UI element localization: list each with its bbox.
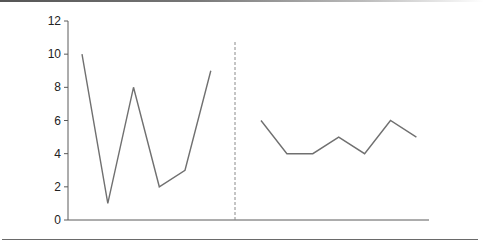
y-axis-ticks: 024681012 (48, 14, 68, 227)
y-tick-label: 10 (48, 47, 62, 61)
series-left-line (82, 54, 211, 203)
bottom-rule (2, 239, 478, 240)
axes (68, 21, 429, 220)
y-tick-label: 4 (54, 147, 61, 161)
y-tick-label: 8 (54, 80, 61, 94)
y-tick-label: 2 (54, 180, 61, 194)
y-tick-label: 6 (54, 114, 61, 128)
y-tick-label: 12 (48, 14, 62, 28)
series-right-line (261, 121, 416, 154)
line-chart: 024681012 (0, 0, 484, 248)
y-tick-label: 0 (54, 213, 61, 227)
